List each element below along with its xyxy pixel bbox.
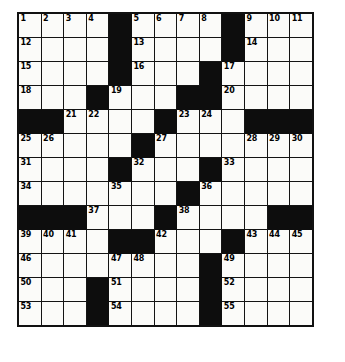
crossword-letter-cell[interactable] — [290, 302, 313, 327]
crossword-letter-cell[interactable] — [222, 110, 245, 134]
crossword-letter-cell[interactable]: 39 — [18, 230, 41, 254]
crossword-letter-cell[interactable]: 33 — [222, 158, 245, 182]
crossword-letter-cell[interactable] — [290, 62, 313, 86]
crossword-letter-cell[interactable] — [290, 182, 313, 206]
crossword-letter-cell[interactable] — [244, 62, 267, 86]
crossword-letter-cell[interactable]: 32 — [131, 158, 154, 182]
crossword-letter-cell[interactable] — [177, 62, 200, 86]
crossword-letter-cell[interactable] — [177, 38, 200, 62]
crossword-letter-cell[interactable] — [109, 206, 132, 230]
crossword-letter-cell[interactable]: 8 — [199, 13, 222, 38]
crossword-letter-cell[interactable] — [290, 158, 313, 182]
crossword-letter-cell[interactable] — [290, 38, 313, 62]
crossword-letter-cell[interactable]: 46 — [18, 254, 41, 278]
crossword-letter-cell[interactable] — [154, 182, 177, 206]
crossword-letter-cell[interactable] — [64, 254, 87, 278]
crossword-letter-cell[interactable] — [267, 182, 290, 206]
crossword-letter-cell[interactable] — [131, 278, 154, 302]
crossword-letter-cell[interactable] — [109, 134, 132, 158]
crossword-letter-cell[interactable] — [154, 278, 177, 302]
crossword-letter-cell[interactable] — [199, 38, 222, 62]
crossword-letter-cell[interactable] — [154, 254, 177, 278]
crossword-letter-cell[interactable] — [41, 254, 64, 278]
crossword-letter-cell[interactable]: 28 — [244, 134, 267, 158]
crossword-letter-cell[interactable]: 47 — [109, 254, 132, 278]
crossword-letter-cell[interactable] — [199, 230, 222, 254]
crossword-letter-cell[interactable]: 44 — [267, 230, 290, 254]
crossword-letter-cell[interactable]: 25 — [18, 134, 41, 158]
crossword-letter-cell[interactable]: 23 — [177, 110, 200, 134]
crossword-letter-cell[interactable] — [64, 86, 87, 110]
crossword-letter-cell[interactable]: 9 — [244, 13, 267, 38]
crossword-letter-cell[interactable] — [131, 86, 154, 110]
crossword-letter-cell[interactable]: 36 — [199, 182, 222, 206]
crossword-letter-cell[interactable] — [64, 38, 87, 62]
crossword-letter-cell[interactable]: 53 — [18, 302, 41, 327]
crossword-letter-cell[interactable]: 40 — [41, 230, 64, 254]
crossword-letter-cell[interactable]: 18 — [18, 86, 41, 110]
crossword-letter-cell[interactable]: 17 — [222, 62, 245, 86]
crossword-letter-cell[interactable] — [244, 206, 267, 230]
crossword-letter-cell[interactable] — [244, 86, 267, 110]
crossword-letter-cell[interactable]: 20 — [222, 86, 245, 110]
crossword-letter-cell[interactable] — [177, 134, 200, 158]
crossword-letter-cell[interactable] — [41, 278, 64, 302]
crossword-letter-cell[interactable] — [86, 62, 109, 86]
crossword-letter-cell[interactable]: 27 — [154, 134, 177, 158]
crossword-letter-cell[interactable] — [131, 110, 154, 134]
crossword-letter-cell[interactable]: 31 — [18, 158, 41, 182]
crossword-letter-cell[interactable] — [131, 206, 154, 230]
crossword-letter-cell[interactable] — [244, 158, 267, 182]
crossword-letter-cell[interactable] — [267, 158, 290, 182]
crossword-letter-cell[interactable]: 7 — [177, 13, 200, 38]
crossword-letter-cell[interactable]: 5 — [131, 13, 154, 38]
crossword-letter-cell[interactable]: 52 — [222, 278, 245, 302]
crossword-letter-cell[interactable]: 21 — [64, 110, 87, 134]
crossword-letter-cell[interactable]: 49 — [222, 254, 245, 278]
crossword-letter-cell[interactable] — [154, 86, 177, 110]
crossword-letter-cell[interactable]: 37 — [86, 206, 109, 230]
crossword-letter-cell[interactable]: 50 — [18, 278, 41, 302]
crossword-letter-cell[interactable] — [267, 86, 290, 110]
crossword-letter-cell[interactable] — [86, 230, 109, 254]
crossword-letter-cell[interactable] — [290, 278, 313, 302]
crossword-letter-cell[interactable] — [199, 134, 222, 158]
crossword-letter-cell[interactable]: 43 — [244, 230, 267, 254]
crossword-letter-cell[interactable] — [290, 86, 313, 110]
crossword-letter-cell[interactable]: 48 — [131, 254, 154, 278]
crossword-letter-cell[interactable] — [64, 278, 87, 302]
crossword-letter-cell[interactable] — [222, 134, 245, 158]
crossword-letter-cell[interactable] — [267, 302, 290, 327]
crossword-letter-cell[interactable]: 42 — [154, 230, 177, 254]
crossword-letter-cell[interactable]: 4 — [86, 13, 109, 38]
crossword-letter-cell[interactable] — [177, 302, 200, 327]
crossword-letter-cell[interactable]: 6 — [154, 13, 177, 38]
crossword-letter-cell[interactable] — [86, 134, 109, 158]
crossword-letter-cell[interactable] — [244, 182, 267, 206]
crossword-letter-cell[interactable]: 45 — [290, 230, 313, 254]
crossword-letter-cell[interactable] — [41, 158, 64, 182]
crossword-letter-cell[interactable] — [86, 38, 109, 62]
crossword-letter-cell[interactable]: 24 — [199, 110, 222, 134]
crossword-letter-cell[interactable] — [86, 158, 109, 182]
crossword-letter-cell[interactable]: 38 — [177, 206, 200, 230]
crossword-letter-cell[interactable] — [267, 38, 290, 62]
crossword-letter-cell[interactable] — [64, 158, 87, 182]
crossword-letter-cell[interactable] — [86, 254, 109, 278]
crossword-letter-cell[interactable] — [267, 278, 290, 302]
crossword-letter-cell[interactable]: 15 — [18, 62, 41, 86]
crossword-letter-cell[interactable]: 11 — [290, 13, 313, 38]
crossword-letter-cell[interactable] — [64, 134, 87, 158]
crossword-letter-cell[interactable] — [41, 302, 64, 327]
crossword-letter-cell[interactable]: 10 — [267, 13, 290, 38]
crossword-letter-cell[interactable]: 3 — [64, 13, 87, 38]
crossword-letter-cell[interactable] — [41, 38, 64, 62]
crossword-letter-cell[interactable]: 55 — [222, 302, 245, 327]
crossword-letter-cell[interactable] — [199, 206, 222, 230]
crossword-letter-cell[interactable] — [154, 38, 177, 62]
crossword-letter-cell[interactable]: 29 — [267, 134, 290, 158]
crossword-letter-cell[interactable]: 22 — [86, 110, 109, 134]
crossword-letter-cell[interactable] — [290, 254, 313, 278]
crossword-letter-cell[interactable]: 54 — [109, 302, 132, 327]
crossword-letter-cell[interactable] — [86, 182, 109, 206]
